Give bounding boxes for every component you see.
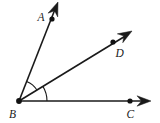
point-a-label: A (37, 11, 46, 23)
point-a-dot (49, 16, 54, 21)
point-d-label: D (115, 47, 125, 59)
point-b-label: B (9, 108, 16, 120)
geometry-canvas: A D B C (0, 0, 160, 123)
geometry-figure: A D B C (0, 0, 160, 123)
point-b-dot (16, 98, 22, 104)
point-c-label: C (127, 108, 135, 120)
point-d-dot (110, 39, 115, 44)
figure-background (0, 0, 160, 123)
point-c-dot (127, 98, 132, 103)
